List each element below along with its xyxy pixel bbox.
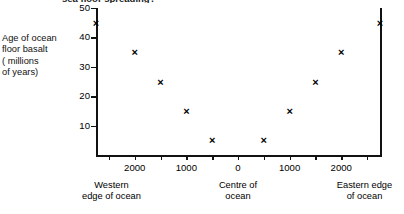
x-tick-label: 2000 — [331, 163, 352, 173]
data-point-marker: × — [312, 76, 318, 87]
x-tick-label: 1000 — [279, 163, 300, 173]
x-axis-region-caption-line: Western — [82, 180, 141, 191]
x-axis-region-caption: Centre ofocean — [219, 180, 257, 202]
y-tick-mark — [91, 126, 96, 127]
x-tick-mark — [212, 155, 213, 160]
x-tick-mark — [264, 155, 265, 160]
data-point-marker: × — [157, 76, 163, 87]
x-axis-region-caption-line: edge of ocean — [82, 191, 141, 202]
data-point-marker: × — [209, 135, 215, 146]
data-point-marker: × — [377, 17, 383, 28]
data-point-marker: × — [93, 17, 99, 28]
x-tick-mark — [290, 155, 291, 160]
x-tick-mark — [367, 155, 368, 160]
x-axis-region-caption: Eastern edgeof ocean — [337, 180, 392, 202]
data-point-marker: × — [338, 47, 344, 58]
y-tick-label: 10 — [79, 121, 90, 131]
y-tick-label: 40 — [79, 33, 90, 43]
right-axis-line — [380, 8, 382, 156]
y-axis-label-line: ( millions — [2, 56, 80, 67]
x-tick-label: 1000 — [176, 163, 197, 173]
x-axis-region-caption-line: of ocean — [337, 191, 392, 202]
y-axis-label-line: floor basalt — [2, 44, 80, 55]
x-axis-region-caption-line: ocean — [219, 191, 257, 202]
data-point-marker: × — [183, 105, 189, 116]
scatter-chart-figure: sea floor spreading? Age of ocean floor … — [0, 0, 404, 214]
x-tick-mark — [238, 155, 239, 160]
x-axis-region-caption-line: Centre of — [219, 180, 257, 191]
y-axis-label: Age of ocean floor basalt ( millions of … — [2, 33, 80, 79]
x-axis-region-caption-line: Eastern edge — [337, 180, 392, 191]
y-tick-mark — [91, 67, 96, 68]
x-tick-label: 0 — [235, 163, 240, 173]
x-tick-mark — [161, 155, 162, 160]
y-axis-label-line: of years) — [2, 67, 80, 78]
data-point-marker: × — [286, 105, 292, 116]
x-tick-mark — [341, 155, 342, 160]
data-point-marker: × — [132, 47, 138, 58]
y-axis-label-line: Age of ocean — [2, 33, 80, 44]
x-tick-mark — [186, 155, 187, 160]
y-tick-label: 20 — [79, 91, 90, 101]
chart-title-clipped: sea floor spreading? — [62, 0, 262, 3]
y-tick-label: 30 — [79, 62, 90, 72]
y-axis-line — [96, 8, 98, 156]
plot-area: 1020304050 20001000010002000 Westernedge… — [96, 8, 382, 156]
y-tick-label: 50 — [79, 3, 90, 13]
y-tick-mark — [91, 96, 96, 97]
y-tick-mark — [91, 8, 96, 9]
x-axis-region-caption: Westernedge of ocean — [82, 180, 141, 202]
x-tick-mark — [109, 155, 110, 160]
x-tick-mark — [315, 155, 316, 160]
data-point-marker: × — [261, 135, 267, 146]
x-tick-mark — [135, 155, 136, 160]
y-tick-mark — [91, 37, 96, 38]
x-tick-label: 2000 — [124, 163, 145, 173]
